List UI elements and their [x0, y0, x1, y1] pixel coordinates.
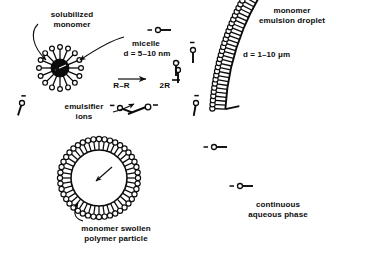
particle-surfactant-head: [134, 186, 139, 191]
particle-surfactant-head: [107, 213, 112, 218]
label-micelle: micelle: [110, 39, 182, 49]
particle-surfactant-head: [132, 192, 137, 197]
label-continuous-aqueous-phase: continuous aqueous phase: [230, 200, 326, 219]
micelle-surfactant-head: [43, 51, 48, 56]
droplet-surfactant-head: [240, 0, 245, 3]
droplet-arc-end-top: [225, 106, 239, 109]
leader-emulsifier-ions-icon: [113, 104, 134, 112]
particle-surfactant-head: [96, 214, 101, 219]
micelle-surfactant-head: [72, 51, 77, 56]
micelle-surfactant-head: [72, 80, 77, 85]
emulsifier-ion: [190, 43, 196, 64]
particle-surfactant-head: [117, 208, 122, 213]
particle-surfactant-head: [61, 159, 66, 164]
emulsifier-ion: [204, 145, 228, 150]
particle-surfactant-head: [57, 175, 62, 180]
particle-surfactant-head: [132, 159, 137, 164]
particle-surfactant-head: [80, 140, 85, 145]
label-emulsifier-ions: emulsifier ions: [56, 102, 112, 121]
particle-surfactant-head: [91, 137, 96, 142]
particle-surfactant-head: [59, 164, 64, 169]
particle-surfactant-head: [75, 143, 80, 148]
particle-surfactant-head: [113, 211, 118, 216]
particle-surfactant-head: [135, 181, 140, 186]
emulsifier-ion-head: [20, 101, 25, 106]
micelle-surfactant-head: [38, 74, 43, 79]
micelle-surfactant-head: [77, 58, 82, 63]
micelle-surfactant-head: [77, 74, 82, 79]
emulsifier-ion-sample-tail: [128, 107, 146, 114]
particle-surfactant-head: [96, 136, 101, 141]
micelle-surfactant-head: [50, 85, 55, 90]
particle-surfactant-head: [80, 211, 85, 216]
particle-surfactant-head: [113, 140, 118, 145]
emulsion-polymerization-diagram: solubilized monomer micelle d = 5–10 nm …: [0, 0, 374, 255]
micelle: [37, 45, 84, 92]
emulsifier-ion: [230, 184, 254, 189]
emulsifier-ion-head: [156, 28, 161, 33]
particle-surfactant-head: [129, 154, 134, 159]
micelle-surfactant-head: [66, 85, 71, 90]
particle-surfactant-head: [91, 214, 96, 219]
particle-surfactant-head: [135, 170, 140, 175]
label-reaction: R–R2R: [104, 71, 184, 100]
label-solubilized-monomer: solubilized monomer: [36, 10, 108, 29]
particle-surfactant-head: [107, 138, 112, 143]
polymer-particle: [57, 136, 140, 219]
micelle-surfactant-head: [38, 58, 43, 63]
label-micelle-diameter: d = 5–10 nm: [105, 49, 189, 59]
particle-surfactant-head: [102, 214, 107, 219]
particle-surfactant-head: [135, 175, 140, 180]
emulsifier-ion: [18, 96, 26, 115]
emulsifier-ion-head: [191, 48, 196, 53]
particle-surfactant-head: [64, 196, 69, 201]
reaction-product: 2R: [160, 81, 170, 90]
micelle-surfactant-head: [58, 45, 63, 50]
label-droplet-diameter: d = 1–10 μm: [243, 50, 339, 60]
emulsifier-ion-head: [238, 184, 243, 189]
particle-surfactant-head: [85, 138, 90, 143]
micelle-surfactant-head: [58, 87, 63, 92]
micelle-surfactant-head: [50, 46, 55, 51]
particle-surfactant-head: [134, 164, 139, 169]
particle-surfactant-head: [58, 181, 63, 186]
particle-surfactant-head: [102, 137, 107, 142]
emulsifier-ion-head: [194, 101, 199, 106]
micelle-surfactant-head: [37, 66, 42, 71]
label-monomer-emulsion-droplet: monomer emulsion droplet: [240, 6, 344, 25]
micelle-surfactant-head: [43, 80, 48, 85]
radical-ion-head: [174, 61, 179, 66]
emulsifier-ion-sample-head: [145, 104, 151, 110]
label-monomer-swollen-polymer-particle: monomer swollen polymer particle: [60, 224, 172, 243]
emulsifier-ion-head: [212, 145, 217, 150]
micelle-surfactant-head: [79, 66, 84, 71]
emulsifier-ion: [194, 96, 199, 116]
particle-surfactant-head: [59, 186, 64, 191]
emulsifier-ion: [148, 28, 172, 33]
particle-surfactant-head: [85, 213, 90, 218]
particle-surfactant-head: [61, 192, 66, 197]
micelle-surfactant-head: [66, 46, 71, 51]
reaction-reactant: R–R: [113, 81, 129, 90]
particle-surfactant-head: [58, 170, 63, 175]
